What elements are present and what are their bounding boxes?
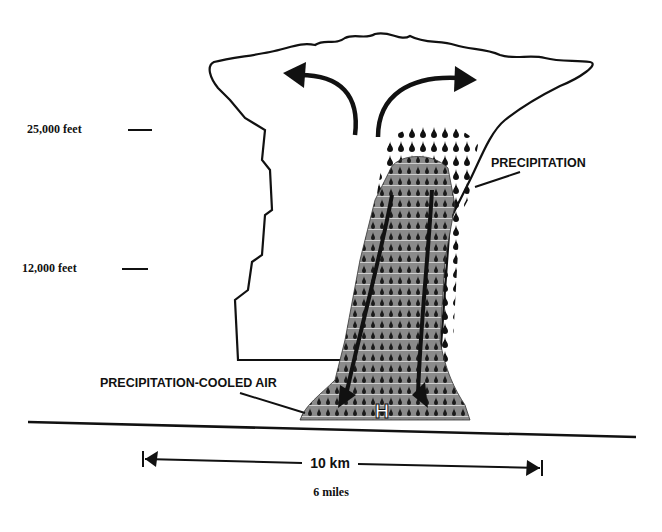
cooled-air-label: PRECIPITATION-COOLED AIR [100,376,277,390]
precipitation-label: PRECIPITATION [491,156,586,170]
scale-bar-right [358,464,540,468]
ground-line [28,422,636,437]
microburst-diagram: H 25,000 feet 12,000 feet PRECIPITATION … [0,0,662,532]
arrowhead-icon [526,460,540,476]
altitude-label-12000: 12,000 feet [22,261,77,275]
scale-km-label: 10 km [310,455,350,471]
scale-miles-label: 6 miles [313,485,349,499]
scale-bar-left [145,459,302,463]
high-pressure-label: H [375,400,389,422]
altitude-label-25000: 25,000 feet [27,122,82,136]
callout-leader [240,393,305,413]
arrowhead-icon [145,451,158,467]
callout-leader [475,172,520,187]
